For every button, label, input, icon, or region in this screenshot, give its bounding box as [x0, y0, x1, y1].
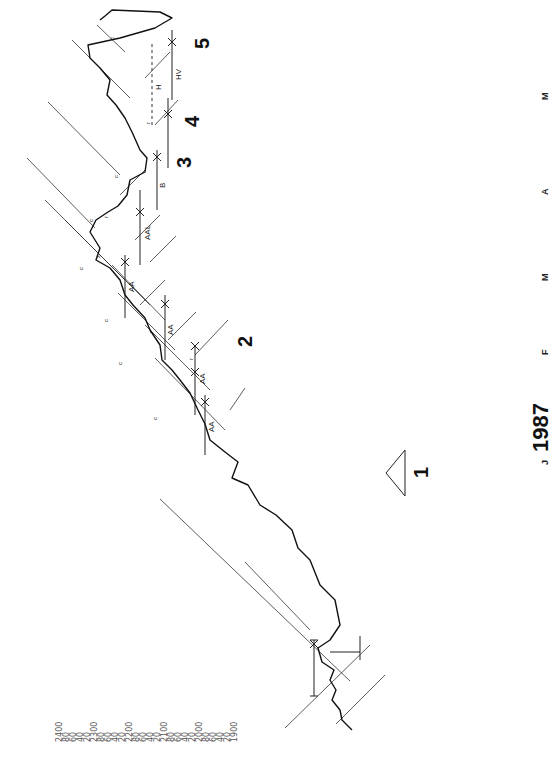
- annotation-c: c: [78, 267, 84, 270]
- triangle-marker-icon: [386, 450, 405, 496]
- annotation-c: c: [113, 175, 119, 178]
- phase-1-label: 1: [410, 467, 432, 478]
- annotation-aa: AA: [207, 421, 216, 432]
- annotation-c: c: [88, 219, 94, 222]
- annotation-b: B: [158, 183, 167, 188]
- month-label-jan: J: [540, 460, 550, 465]
- annotation-aa: AA: [198, 373, 207, 384]
- annotation-hv: HV: [174, 68, 183, 80]
- phase-3-label: 3: [173, 157, 195, 168]
- annotation-c: c: [103, 319, 109, 322]
- month-label-mar: M: [540, 274, 550, 282]
- phase-labels: 1 2 3 4 5: [173, 38, 432, 478]
- annotation-r: r: [103, 216, 109, 218]
- annotation-r: r: [188, 358, 194, 360]
- month-label-feb: F: [540, 349, 550, 355]
- annotation-h: H: [154, 84, 163, 90]
- annotation-aa: AA: [166, 324, 175, 335]
- annotation-c: c: [152, 417, 158, 420]
- annotation-aal: AAL: [143, 224, 152, 240]
- annotation-aa: AA: [127, 281, 136, 292]
- phase-5-label: 5: [191, 38, 213, 49]
- y-tick: 1900: [230, 722, 239, 742]
- price-line: [88, 10, 352, 730]
- annotation-r: r: [145, 122, 151, 124]
- phase-4-label: 4: [181, 115, 203, 127]
- x-axis: J F M A M 1987: [528, 93, 553, 466]
- month-label-may: M: [540, 93, 550, 101]
- month-label-apr: A: [540, 188, 550, 195]
- y-axis: 2400 80 60 40 20 2300 80 60 40 20 2200 8…: [55, 722, 239, 742]
- annotation-c: c: [117, 362, 123, 365]
- year-label: 1987: [528, 403, 553, 452]
- rotated-index-chart: 2400 80 60 40 20 2300 80 60 40 20 2200 8…: [0, 0, 557, 777]
- phase-2-label: 2: [234, 336, 256, 347]
